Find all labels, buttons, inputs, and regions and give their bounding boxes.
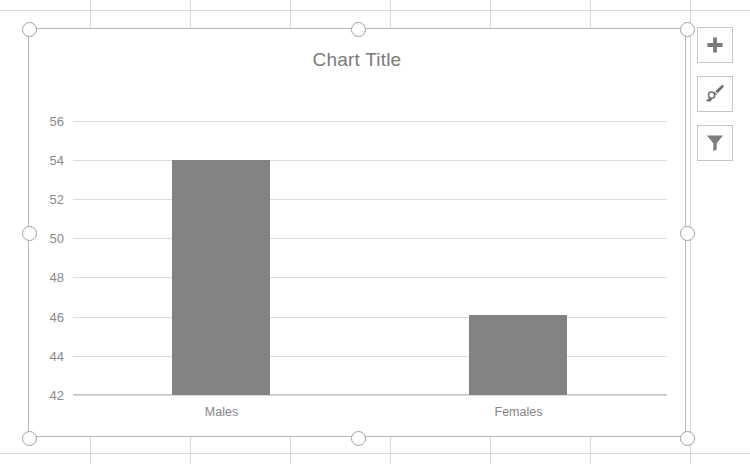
y-gridline bbox=[73, 356, 667, 357]
chart-styles-button[interactable] bbox=[697, 76, 733, 112]
resize-handle-bottom-center[interactable] bbox=[351, 431, 366, 446]
resize-handle-middle-right[interactable] bbox=[680, 226, 695, 241]
category-axis-label: Females bbox=[495, 405, 543, 419]
chart-filters-button[interactable] bbox=[697, 125, 733, 161]
y-axis-tick-label: 44 bbox=[50, 348, 64, 363]
y-axis-tick-label: 50 bbox=[50, 231, 64, 246]
resize-handle-middle-left[interactable] bbox=[22, 226, 37, 241]
y-axis-tick-label: 52 bbox=[50, 192, 64, 207]
category-axis-label: Males bbox=[205, 405, 238, 419]
chart-title[interactable]: Chart Title bbox=[29, 49, 685, 71]
y-gridline bbox=[73, 160, 667, 161]
y-gridline bbox=[73, 395, 667, 396]
y-gridline bbox=[73, 121, 667, 122]
grid-row-line bbox=[0, 10, 750, 11]
resize-handle-bottom-left[interactable] bbox=[22, 431, 37, 446]
paintbrush-icon bbox=[704, 83, 726, 105]
resize-handle-top-left[interactable] bbox=[22, 22, 37, 37]
y-axis-tick-label: 54 bbox=[50, 152, 64, 167]
y-axis-tick-label: 42 bbox=[50, 388, 64, 403]
y-gridline bbox=[73, 317, 667, 318]
excel-worksheet-canvas: Chart Title 4244464850525456MalesFemales bbox=[0, 0, 750, 464]
plot-area[interactable]: 4244464850525456MalesFemales bbox=[73, 101, 667, 395]
y-axis-tick-label: 48 bbox=[50, 270, 64, 285]
y-axis-tick-label: 46 bbox=[50, 309, 64, 324]
grid-row-line bbox=[0, 453, 750, 454]
plus-icon bbox=[705, 35, 725, 55]
resize-handle-top-right[interactable] bbox=[680, 22, 695, 37]
chart-object[interactable]: Chart Title 4244464850525456MalesFemales bbox=[28, 28, 686, 437]
resize-handle-bottom-right[interactable] bbox=[680, 431, 695, 446]
bar-males[interactable] bbox=[172, 160, 270, 395]
chart-elements-button[interactable] bbox=[697, 27, 733, 63]
y-gridline bbox=[73, 199, 667, 200]
y-gridline bbox=[73, 277, 667, 278]
funnel-icon bbox=[705, 133, 725, 153]
resize-handle-top-center[interactable] bbox=[351, 22, 366, 37]
y-axis-tick-label: 56 bbox=[50, 113, 64, 128]
chart-side-buttons bbox=[697, 27, 735, 174]
y-gridline bbox=[73, 238, 667, 239]
bar-females[interactable] bbox=[469, 315, 567, 395]
